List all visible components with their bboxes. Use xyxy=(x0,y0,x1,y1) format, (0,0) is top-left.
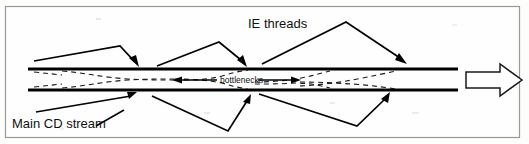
label-bottlenecks: bottlenecks xyxy=(220,75,263,85)
figure-container: IE threads bottlenecks Main CD stream xyxy=(0,0,529,144)
label-ie-threads: IE threads xyxy=(248,16,308,31)
label-main-cd-stream: Main CD stream xyxy=(12,116,106,131)
diagram-canvas: IE threads bottlenecks Main CD stream xyxy=(0,0,529,144)
